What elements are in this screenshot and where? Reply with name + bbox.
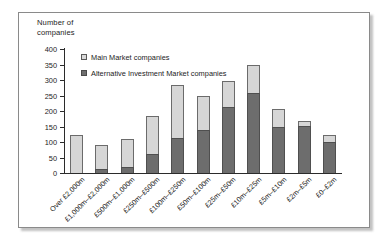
y-axis-title-line-1: Number of: [37, 18, 107, 28]
y-axis-tick-label: 250: [33, 92, 57, 101]
x-axis-tick-label-text: £0–£2m: [314, 175, 339, 200]
bar-group[interactable]: [70, 135, 83, 173]
figure-frame: Number of companies 05010015020025030035…: [18, 12, 370, 228]
x-axis-tick-labels: Over £2,000m£1,000m–£2,000m£500m–£1,000m…: [64, 175, 354, 235]
y-axis-tick-label: 300: [33, 76, 57, 85]
bar-chart: Number of companies 05010015020025030035…: [19, 13, 369, 227]
bar-segment-main-market: [323, 135, 336, 142]
bar-segment-main-market: [197, 96, 210, 130]
y-axis-title-line-2: companies: [37, 28, 107, 38]
y-axis-tick-label: 100: [33, 138, 57, 147]
y-axis-tick-mark: [60, 173, 65, 174]
y-axis-title: Number of companies: [37, 18, 107, 37]
bar-segment-main-market: [171, 85, 184, 137]
bar-segment-main-market: [247, 65, 260, 93]
y-axis-tick-label: 400: [33, 45, 57, 54]
y-axis-tick-label: 150: [33, 123, 57, 132]
y-axis-tick-label: 0: [33, 169, 57, 178]
bar-segment-main-market: [272, 109, 285, 127]
y-axis-tick-label: 50: [33, 154, 57, 163]
y-axis-tick-label: 350: [33, 61, 57, 70]
bar-segment-main-market: [222, 81, 235, 106]
bar-segment-main-market: [70, 135, 83, 173]
y-axis-tick-label: 200: [33, 107, 57, 116]
